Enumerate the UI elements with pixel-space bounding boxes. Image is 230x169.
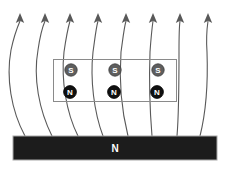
field-line [200,13,212,136]
pole-label: S [112,66,118,75]
diagram-canvas: S S S N N N N [0,0,230,169]
field-line-path [200,21,208,136]
magnetic-field-diagram: S S S N N N N [0,0,230,169]
pole-label: N [67,88,73,97]
pole-marker-s-1: S [65,64,77,76]
pole-marker-n-2: N [108,86,121,99]
field-line [120,13,130,136]
field-line-path [150,21,153,136]
magnet-bar-label: N [111,143,118,154]
field-line-path [9,21,25,136]
pole-marker-n-1: N [64,86,77,99]
field-line-path [177,21,180,136]
field-line [176,13,184,136]
magnet-bar: N [13,136,217,160]
pole-label: S [155,66,161,75]
field-line [92,13,103,136]
pole-label: N [111,88,117,97]
field-line-path [92,21,103,136]
pole-label: N [154,88,160,97]
field-line-path [36,21,52,136]
field-line [9,13,25,136]
field-line-path [120,21,128,136]
pole-label: S [68,66,74,75]
field-line-path [63,21,78,136]
pole-marker-n-3: N [151,86,164,99]
field-line [36,13,52,136]
pole-marker-s-3: S [152,64,164,76]
pole-marker-s-2: S [109,64,121,76]
